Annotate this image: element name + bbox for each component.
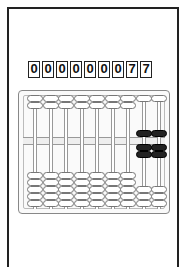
lower-bead[interactable] <box>27 186 43 193</box>
abacus-rod-4[interactable] <box>74 95 90 209</box>
lower-bead[interactable] <box>74 186 90 193</box>
lower-bead[interactable] <box>136 193 152 200</box>
lower-bead[interactable] <box>89 172 105 179</box>
lower-bead[interactable] <box>58 172 74 179</box>
abacus-rod-8[interactable] <box>136 95 152 209</box>
lower-bead[interactable] <box>43 172 59 179</box>
abacus-rod-6[interactable] <box>105 95 121 209</box>
lower-bead-active[interactable] <box>136 151 152 158</box>
lower-bead[interactable] <box>120 179 136 186</box>
lower-bead[interactable] <box>151 200 167 207</box>
abacus-rod-1[interactable] <box>27 95 43 209</box>
lower-bead[interactable] <box>120 172 136 179</box>
lower-bead[interactable] <box>151 186 167 193</box>
lower-bead[interactable] <box>136 186 152 193</box>
upper-bead[interactable] <box>89 95 105 102</box>
digit-3: 0 <box>56 61 68 78</box>
upper-bead[interactable] <box>105 95 121 102</box>
upper-bead[interactable] <box>74 95 90 102</box>
upper-bead[interactable] <box>89 102 105 109</box>
lower-bead[interactable] <box>74 193 90 200</box>
lower-bead[interactable] <box>89 200 105 207</box>
upper-bead[interactable] <box>58 102 74 109</box>
digit-1: 0 <box>28 61 40 78</box>
lower-bead[interactable] <box>43 179 59 186</box>
upper-bead[interactable] <box>27 102 43 109</box>
upper-bead[interactable] <box>136 95 152 102</box>
upper-bead[interactable] <box>120 102 136 109</box>
upper-bead[interactable] <box>74 102 90 109</box>
lower-bead[interactable] <box>74 200 90 207</box>
abacus-rod-3[interactable] <box>58 95 74 209</box>
lower-bead-active[interactable] <box>151 151 167 158</box>
lower-bead[interactable] <box>105 179 121 186</box>
digit-4: 0 <box>70 61 82 78</box>
abacus-rod-5[interactable] <box>89 95 105 209</box>
lower-bead[interactable] <box>89 186 105 193</box>
lower-bead[interactable] <box>120 200 136 207</box>
upper-bead[interactable] <box>120 95 136 102</box>
upper-bead[interactable] <box>43 102 59 109</box>
lower-bead[interactable] <box>43 193 59 200</box>
lower-bead[interactable] <box>105 172 121 179</box>
lower-bead[interactable] <box>74 172 90 179</box>
lower-bead[interactable] <box>27 179 43 186</box>
lower-bead[interactable] <box>120 193 136 200</box>
lower-bead[interactable] <box>136 200 152 207</box>
lower-bead[interactable] <box>120 186 136 193</box>
upper-bead-active[interactable] <box>136 130 152 137</box>
lower-bead[interactable] <box>43 186 59 193</box>
upper-bead[interactable] <box>43 95 59 102</box>
digit-7: 0 <box>112 61 124 78</box>
lower-bead[interactable] <box>105 193 121 200</box>
lower-bead[interactable] <box>105 200 121 207</box>
lower-bead[interactable] <box>151 193 167 200</box>
lower-bead[interactable] <box>27 193 43 200</box>
lower-bead-active[interactable] <box>136 144 152 151</box>
upper-bead[interactable] <box>105 102 121 109</box>
digit-9: 7 <box>140 61 152 78</box>
upper-bead[interactable] <box>27 95 43 102</box>
lower-bead[interactable] <box>105 186 121 193</box>
abacus-frame <box>18 90 170 214</box>
digit-6: 0 <box>98 61 110 78</box>
lower-bead[interactable] <box>89 179 105 186</box>
digit-2: 0 <box>42 61 54 78</box>
digit-display: 0 0 0 0 0 0 0 7 7 <box>28 61 152 78</box>
lower-bead[interactable] <box>27 172 43 179</box>
upper-bead-active[interactable] <box>151 130 167 137</box>
abacus-rod-9[interactable] <box>151 95 167 209</box>
abacus-rod-7[interactable] <box>120 95 136 209</box>
upper-bead[interactable] <box>151 95 167 102</box>
lower-bead-active[interactable] <box>151 144 167 151</box>
upper-bead[interactable] <box>58 95 74 102</box>
lower-bead[interactable] <box>58 179 74 186</box>
abacus-rod-2[interactable] <box>43 95 59 209</box>
lower-bead[interactable] <box>89 193 105 200</box>
lower-bead[interactable] <box>58 186 74 193</box>
lower-bead[interactable] <box>58 193 74 200</box>
lower-bead[interactable] <box>27 200 43 207</box>
lower-bead[interactable] <box>58 200 74 207</box>
lower-bead[interactable] <box>43 200 59 207</box>
lower-bead[interactable] <box>74 179 90 186</box>
digit-5: 0 <box>84 61 96 78</box>
digit-8: 7 <box>126 61 138 78</box>
